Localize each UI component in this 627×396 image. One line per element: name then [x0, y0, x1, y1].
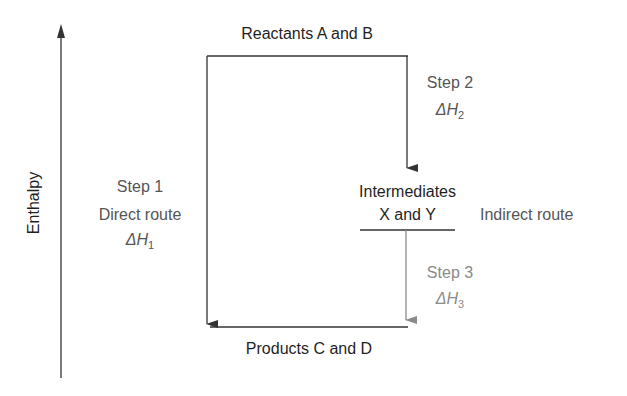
- delta-h3-label: ΔH3: [410, 290, 490, 313]
- step2-label: Step 2: [410, 74, 490, 92]
- intermediates-label: Intermediates: [335, 183, 480, 201]
- delta-h2-label: ΔH2: [410, 101, 490, 124]
- indirect-route-label: Indirect route: [480, 206, 573, 224]
- intermediates-species-label: X and Y: [335, 206, 480, 224]
- enthalpy-axis: [57, 24, 65, 378]
- direct-route-label: Direct route: [80, 206, 200, 224]
- step1-label: Step 1: [90, 178, 190, 196]
- axis-arrow-icon: [57, 24, 65, 38]
- step3-label: Step 3: [410, 264, 490, 282]
- diagram-lines: [0, 0, 627, 396]
- reactants-label: Reactants A and B: [207, 25, 407, 43]
- products-label: Products C and D: [209, 340, 409, 358]
- enthalpy-axis-label: Enthalpy: [25, 172, 43, 234]
- delta-h1-label: ΔH1: [90, 231, 190, 254]
